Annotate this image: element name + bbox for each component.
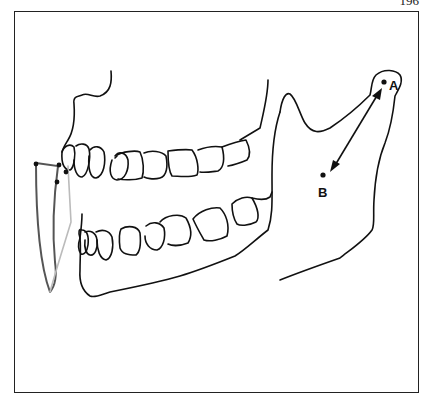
- point-b: [320, 172, 325, 177]
- maxilla-outline: [62, 71, 111, 152]
- label-a: A: [389, 78, 399, 93]
- mandible-diagram: A B: [0, 0, 425, 402]
- mandible-outline: [80, 112, 280, 297]
- label-b: B: [318, 185, 327, 200]
- arrowhead-b-icon: [330, 160, 340, 172]
- coronoid-process: [280, 70, 401, 280]
- condyle-arrow: [330, 88, 382, 172]
- arrowhead-a-icon: [372, 88, 382, 100]
- point-a: [381, 79, 386, 84]
